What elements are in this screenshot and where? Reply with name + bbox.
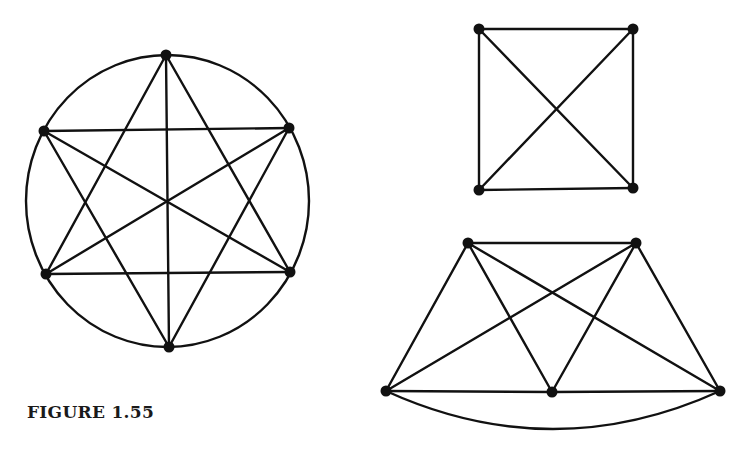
figure-canvas: FIGURE 1.55 (0, 0, 742, 451)
k6-circle-graph (26, 50, 309, 353)
vertex-top-left (463, 238, 474, 249)
vertex-bottom-left (381, 386, 392, 397)
vertex-upper-right (284, 123, 295, 134)
edge-top-left-bottom-left (386, 243, 468, 391)
vertex-bottom-right (628, 183, 639, 194)
vertex-bottom (164, 342, 175, 353)
vertex-bottom-right (715, 386, 726, 397)
edge-top-right-bottom-left (386, 243, 636, 391)
edge-top-right-bottom-middle (552, 243, 636, 392)
k4-square-graph (474, 24, 639, 196)
edge-lower-left-lower-right (46, 272, 290, 274)
vertex-top-left (474, 24, 485, 35)
vertex-top-right (628, 24, 639, 35)
k5-trapezoid-graph (381, 238, 726, 430)
edge-bottom-middle-bottom-right (552, 391, 720, 392)
vertex-lower-right (285, 267, 296, 278)
figure-caption: FIGURE 1.55 (27, 402, 154, 422)
vertex-bottom-middle (547, 387, 558, 398)
edge-upper-left-upper-right (44, 128, 289, 131)
vertex-bottom-left (474, 185, 485, 196)
vertex-top (161, 50, 172, 61)
vertex-top-right (631, 238, 642, 249)
edge-bottom-left-bottom-middle (386, 391, 552, 392)
vertex-lower-left (41, 269, 52, 280)
vertex-upper-left (39, 126, 50, 137)
edge-bottom-right-bottom-left (479, 188, 633, 190)
edge-top-right-bottom-right (636, 243, 720, 391)
